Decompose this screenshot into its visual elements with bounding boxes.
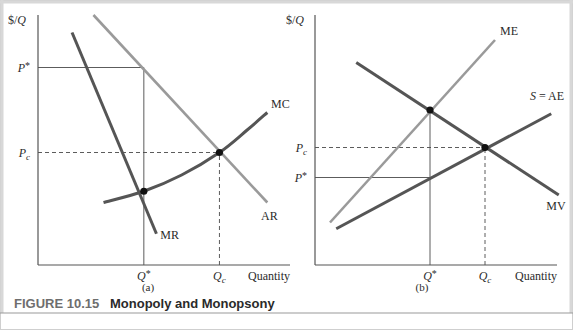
curve-label-me: ME [500, 24, 518, 38]
curve-label-mc: MC [271, 97, 290, 111]
point-me-mv [426, 106, 433, 113]
y-axis-label: $/Q [286, 13, 304, 27]
curve-label-mr: MR [160, 228, 179, 242]
curve-label-s-ae: S = AE [530, 89, 564, 103]
x-axis-label: Quantity [515, 269, 557, 283]
y-axis-label: $/Q [8, 13, 26, 27]
point-ae-mv [481, 144, 488, 151]
figure: $/QP*PcQ*QcQuantityMCARMR(a) $/QPcP*Q*Qc… [0, 0, 573, 330]
point-ar-mc [216, 149, 223, 156]
curve-label-ar: AR [261, 209, 278, 223]
x-axis-label: Quantity [248, 269, 290, 283]
caption-number: FIGURE 10.15 [14, 296, 99, 311]
point-mr-mc [140, 188, 147, 195]
caption-title: Monopoly and Monopsony [110, 296, 275, 311]
panel-label: (a) [142, 281, 155, 294]
panel-label: (b) [416, 281, 429, 294]
curve-label-mv: MV [546, 199, 566, 213]
